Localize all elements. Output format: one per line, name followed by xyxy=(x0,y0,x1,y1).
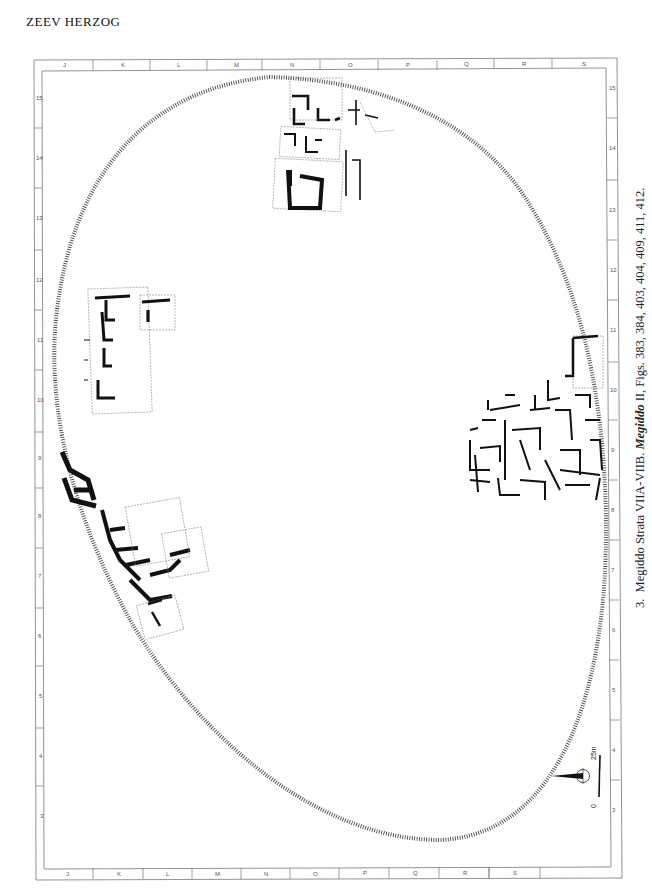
svg-text:R: R xyxy=(463,870,468,876)
svg-text:6: 6 xyxy=(612,627,616,633)
svg-text:N: N xyxy=(290,62,294,68)
svg-text:12: 12 xyxy=(610,267,617,273)
north-arrow-icon xyxy=(551,768,590,784)
svg-text:7: 7 xyxy=(38,573,42,579)
caption-number: 3. xyxy=(633,599,647,608)
svg-text:L: L xyxy=(166,871,170,877)
figure-caption: 3. Megiddo Strata VIIA-VIIB. Megiddo II,… xyxy=(633,188,648,608)
svg-text:P: P xyxy=(363,870,367,876)
svg-text:M: M xyxy=(234,62,239,68)
svg-text:14: 14 xyxy=(609,145,616,151)
svg-text:10: 10 xyxy=(610,387,617,393)
svg-text:13: 13 xyxy=(609,207,616,213)
svg-text:8: 8 xyxy=(611,507,615,513)
building-cluster-north xyxy=(273,78,395,212)
scale-start-label: 0 xyxy=(590,804,597,808)
svg-text:R: R xyxy=(522,61,527,67)
svg-text:7: 7 xyxy=(611,567,615,573)
svg-text:12: 12 xyxy=(36,277,43,283)
svg-text:14: 14 xyxy=(36,155,43,161)
svg-text:S: S xyxy=(513,870,517,876)
svg-text:O: O xyxy=(313,871,318,877)
svg-text:5: 5 xyxy=(612,687,616,693)
svg-text:15: 15 xyxy=(36,95,43,101)
svg-text:O: O xyxy=(348,62,353,68)
svg-text:J: J xyxy=(63,62,66,68)
svg-text:3: 3 xyxy=(40,813,44,819)
caption-post: II, Figs. 383, 384, 403, 404, 409, 411, … xyxy=(633,188,647,402)
svg-text:J: J xyxy=(66,871,69,877)
building-cluster-east xyxy=(470,336,603,500)
caption-pre: Megiddo Strata VIIA-VIIB. xyxy=(633,453,647,593)
svg-text:M: M xyxy=(215,871,220,877)
svg-text:9: 9 xyxy=(611,447,615,453)
scale-end-label: 25m xyxy=(590,746,597,760)
svg-text:K: K xyxy=(121,62,125,68)
building-cluster-west-upper xyxy=(84,287,175,414)
svg-text:Q: Q xyxy=(464,61,469,67)
site-plan: J K L M N O P Q R S J K L M N O P Q R S … xyxy=(0,0,652,890)
svg-text:11: 11 xyxy=(37,337,44,343)
svg-text:10: 10 xyxy=(37,397,44,403)
grid-letters-bottom: J K L M N O P Q R S xyxy=(66,870,517,877)
svg-text:4: 4 xyxy=(39,753,43,759)
grid-frame xyxy=(34,58,622,880)
svg-text:S: S xyxy=(582,61,586,67)
svg-text:9: 9 xyxy=(38,455,42,461)
svg-text:N: N xyxy=(264,871,268,877)
svg-text:4: 4 xyxy=(612,747,616,753)
caption-italic: Megiddo xyxy=(633,404,647,449)
svg-text:P: P xyxy=(406,62,410,68)
svg-text:8: 8 xyxy=(38,513,42,519)
svg-text:11: 11 xyxy=(610,327,617,333)
svg-text:K: K xyxy=(117,871,121,877)
svg-text:6: 6 xyxy=(38,633,42,639)
grid-letters-top: J K L M N O P Q R S xyxy=(63,61,586,68)
svg-text:Q: Q xyxy=(413,870,418,876)
svg-text:3: 3 xyxy=(612,807,616,813)
svg-text:15: 15 xyxy=(609,85,616,91)
svg-text:5: 5 xyxy=(39,693,43,699)
svg-text:13: 13 xyxy=(36,215,43,221)
scale-bar xyxy=(599,755,601,797)
building-cluster-west-lower xyxy=(62,452,209,640)
svg-text:L: L xyxy=(177,62,181,68)
city-wall-outline xyxy=(54,77,606,840)
